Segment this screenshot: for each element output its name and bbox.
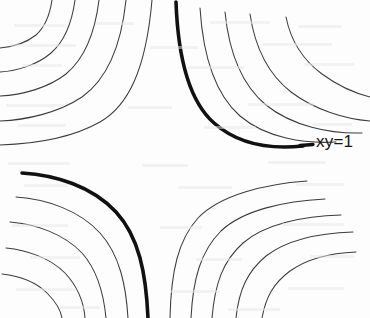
hyperbola-curve-lower-left-2 [16,197,128,318]
label-leader-line [300,145,313,146]
hyperbola-curve-upper-right-3 [225,12,362,133]
hyperbola-figure: xy=1 [0,0,370,318]
hyperbola-curve-upper-right-2 [200,8,336,142]
hyperbola-curve-upper-left-4 [0,0,75,72]
curve-group-lower-left [2,173,148,318]
curve-group-upper-right [176,2,370,147]
hyperbola-curve-lower-right-1 [170,181,307,318]
curve-group-lower-right [170,181,356,318]
hyperbola-curve-lower-left-4 [6,248,85,318]
hyperbola-curve-upper-left-3 [0,0,99,96]
hyperbola-curve-lower-right-3 [212,215,341,318]
hyperbola-curve-lower-left-bold [22,173,148,318]
hyperbola-curve-upper-left-5 [0,0,52,48]
hyperbola-plot-canvas [0,0,370,318]
hyperbola-curve-upper-left-1 [0,0,152,145]
hyperbola-curve-lower-left-3 [10,222,106,318]
hyperbola-curve-lower-right-5 [262,252,356,318]
hyperbola-curve-upper-right-4 [250,14,370,121]
hyperbola-curve-lower-right-4 [236,232,353,318]
curve-label-xy-equals-1: xy=1 [316,132,353,152]
hyperbola-curve-upper-left-2 [0,0,126,121]
hyperbola-curve-lower-left-5 [2,274,62,318]
hyperbola-curve-upper-right-5 [286,17,370,97]
curve-group-upper-left [0,0,152,145]
hyperbola-curve-lower-right-2 [191,199,325,318]
hyperbola-curve-xy-equals-1 [176,2,303,147]
